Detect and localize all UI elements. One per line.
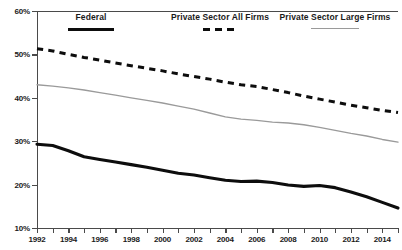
line-private-sector-large-firms	[37, 85, 398, 142]
line-federal	[37, 144, 398, 208]
chart-series-layer	[0, 0, 402, 250]
chart-container: Federal Private Sector All Firms Private…	[0, 0, 402, 250]
line-private-sector-all-firms	[37, 49, 398, 113]
